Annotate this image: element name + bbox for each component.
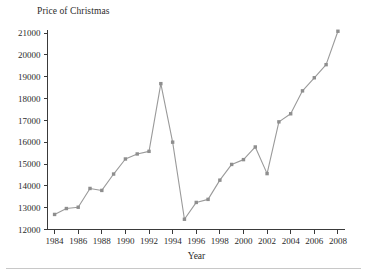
x-tick-label: 1986 <box>69 236 88 246</box>
y-tick-label: 12000 <box>18 225 41 235</box>
data-point-marker <box>242 158 245 161</box>
x-tick-label: 1998 <box>211 236 230 246</box>
data-point-marker <box>336 30 339 33</box>
x-tick-label: 1992 <box>140 236 158 246</box>
y-axis-ticks: 1200013000140001500016000170001800019000… <box>18 28 48 235</box>
data-point-marker <box>195 201 198 204</box>
data-point-marker <box>136 152 139 155</box>
x-tick-label: 2008 <box>329 236 348 246</box>
x-tick-label: 1984 <box>46 236 65 246</box>
x-tick-label: 1994 <box>164 236 183 246</box>
y-tick-label: 19000 <box>18 72 41 82</box>
y-tick-label: 14000 <box>18 181 41 191</box>
y-tick-label: 16000 <box>18 137 41 147</box>
data-point-marker <box>254 145 257 148</box>
x-axis-label-wrap: Year <box>0 251 367 261</box>
x-tick-label: 2004 <box>282 236 301 246</box>
x-tick-label: 1990 <box>116 236 135 246</box>
data-point-marker <box>183 218 186 221</box>
data-point-marker <box>206 198 209 201</box>
y-tick-label: 13000 <box>18 203 41 213</box>
data-point-marker <box>147 150 150 153</box>
y-tick-label: 17000 <box>18 116 41 126</box>
data-point-marker <box>124 157 127 160</box>
data-point-marker <box>313 76 316 79</box>
data-point-marker <box>265 172 268 175</box>
line-chart-plot: 1200013000140001500016000170001800019000… <box>0 0 367 271</box>
data-point-marker <box>100 189 103 192</box>
data-point-marker <box>65 207 68 210</box>
data-point-marker <box>230 163 233 166</box>
chart-figure: Price of Christmas 120001300014000150001… <box>0 0 367 271</box>
data-series-markers <box>53 30 340 221</box>
data-point-marker <box>289 112 292 115</box>
data-point-marker <box>277 120 280 123</box>
y-tick-label: 20000 <box>18 50 41 60</box>
x-axis-label: Year <box>162 251 206 261</box>
data-point-marker <box>76 206 79 209</box>
x-axis-ticks: 1984198619881990199219941996199820002002… <box>46 230 348 246</box>
data-point-marker <box>324 63 327 66</box>
x-tick-label: 1996 <box>187 236 206 246</box>
data-point-marker <box>88 187 91 190</box>
y-tick-label: 15000 <box>18 159 41 169</box>
y-tick-label: 18000 <box>18 94 41 104</box>
y-tick-label: 21000 <box>18 28 41 38</box>
data-point-marker <box>112 172 115 175</box>
data-point-marker <box>218 178 221 181</box>
data-point-marker <box>301 89 304 92</box>
data-point-marker <box>159 82 162 85</box>
data-point-marker <box>53 213 56 216</box>
data-series-line <box>55 31 338 219</box>
bottom-divider <box>6 268 361 269</box>
x-tick-label: 1988 <box>93 236 112 246</box>
data-point-marker <box>171 140 174 143</box>
x-tick-label: 2002 <box>258 236 276 246</box>
x-tick-label: 2000 <box>234 236 253 246</box>
x-tick-label: 2006 <box>305 236 324 246</box>
